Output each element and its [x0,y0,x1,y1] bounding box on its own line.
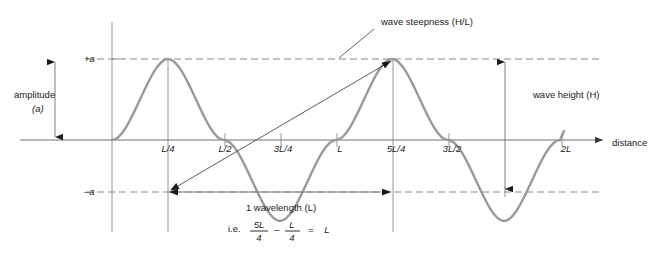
formula-minus-sign: – [274,224,280,235]
wave-diagram-canvas: amplitude (a) +a –a L/4 L/2 3L/4 L 5L/4 … [0,0,667,269]
formula-numerator-1: 5L [254,219,265,230]
xtick-label-2L: 2L [560,143,572,154]
xtick-label-3L-over-2: 3L/2 [443,143,462,154]
minus-a-label: –a [83,186,95,197]
amplitude-label-line1: amplitude [14,89,55,100]
x-axis-label: distance [612,137,647,148]
formula-numerator-2: L [289,219,294,230]
wave-steepness-leader [339,29,374,58]
xtick-label-5L-over-4: 5L/4 [387,143,406,154]
formula-equals-sign: = [308,224,314,235]
wave-steepness-label: wave steepness (H/L) [380,16,473,27]
xtick-label-L-over-4: L/4 [161,143,174,154]
wave-height-label: wave height (H) [532,89,600,100]
amplitude-label-line2: (a) [32,103,44,114]
wavelength-formula: i.e. 5L 4 – L 4 = L [228,219,330,243]
xtick-label-L: L [337,143,342,154]
wave-diagram-figure: amplitude (a) +a –a L/4 L/2 3L/4 L 5L/4 … [0,0,667,269]
formula-denominator-2: 4 [289,232,294,243]
formula-prefix: i.e. [228,223,241,234]
wave-steepness-line [171,61,391,190]
wavelength-label: 1 wavelength (L) [246,202,316,213]
xtick-label-L-over-2: L/2 [218,143,232,154]
formula-denominator-1: 4 [256,232,261,243]
xtick-label-3L-over-4: 3L/4 [274,143,293,154]
formula-result: L [324,224,329,235]
plus-a-label: +a [84,53,95,64]
